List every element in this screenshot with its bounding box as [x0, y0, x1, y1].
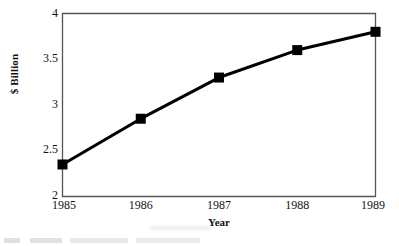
x-tick-label: 1985 — [36, 198, 92, 212]
data-line — [63, 32, 376, 165]
plot-frame — [63, 14, 376, 197]
data-point-marker — [136, 114, 146, 124]
data-point-marker — [58, 159, 68, 169]
x-axis-title: Year — [62, 216, 376, 228]
data-point-marker — [371, 27, 381, 37]
x-tick-label: 1986 — [113, 198, 169, 212]
data-line-series-1 — [63, 32, 376, 165]
x-tick-label: 1988 — [269, 198, 325, 212]
x-tick-label: 1989 — [345, 198, 399, 212]
data-point-marker — [214, 73, 224, 83]
data-point-marker — [292, 45, 302, 55]
line-chart-figure: $ Billion 4 3.5 3 2.5 2 1985 1986 1987 1… — [0, 0, 399, 246]
scan-artifact — [4, 238, 200, 243]
x-tick-label: 1987 — [191, 198, 247, 212]
x-axis-tick-labels: 1985 1986 1987 1988 1989 — [0, 198, 399, 216]
scan-artifact — [150, 226, 210, 230]
